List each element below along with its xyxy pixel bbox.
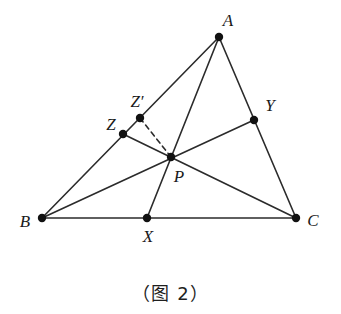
point-z-prime-label: Z′ <box>130 93 143 110</box>
point-z-dot <box>119 130 127 138</box>
point-z-prime-dot <box>136 114 144 122</box>
segments-layer <box>42 37 296 218</box>
point-p-dot <box>167 153 175 161</box>
point-x-dot <box>143 214 151 222</box>
segment-b-a <box>42 37 219 218</box>
vertex-a-label: A <box>223 12 233 29</box>
cevian-a-x <box>147 37 219 218</box>
vertex-a-dot <box>215 33 223 41</box>
geometry-figure: ABCXYZZ′P （图 2） <box>0 0 341 314</box>
vertex-b-dot <box>38 214 46 222</box>
vertex-c-label: C <box>307 212 318 229</box>
point-y-label: Y <box>265 97 274 114</box>
point-p-label: P <box>174 168 184 185</box>
vertex-b-label: B <box>20 213 30 230</box>
cevian-b-y <box>42 120 254 218</box>
vertex-c-dot <box>292 214 300 222</box>
segment-z-prime-p <box>140 118 171 157</box>
segment-a-c <box>219 37 296 218</box>
point-y-dot <box>250 116 258 124</box>
cevian-c-z <box>123 134 296 218</box>
points-layer <box>38 33 300 222</box>
figure-caption: （图 2） <box>0 279 341 305</box>
geometry-canvas <box>0 0 341 314</box>
point-z-label: Z <box>106 116 115 133</box>
point-x-label: X <box>143 228 153 245</box>
